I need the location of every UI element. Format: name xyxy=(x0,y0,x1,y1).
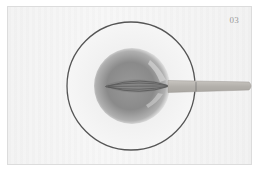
whisk-handle xyxy=(168,81,251,93)
bowl-whisk-illustration xyxy=(0,0,255,171)
